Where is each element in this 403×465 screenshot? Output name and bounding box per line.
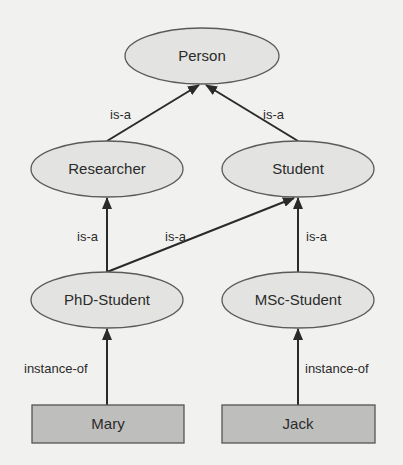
edge-jack-instance-of-msc-student: instance-of <box>298 329 369 405</box>
node-jack: Jack <box>222 405 375 443</box>
edge-msc-student-is-a-student: is-a <box>298 198 328 272</box>
node-mary: Mary <box>32 405 184 443</box>
arrow-line <box>107 198 294 272</box>
edge-label-instance-of: instance-of <box>24 361 88 376</box>
node-label-student: Student <box>272 160 325 177</box>
edge-phd-student-is-a-student: is-a <box>107 198 294 272</box>
edge-label-is-a: is-a <box>77 229 99 244</box>
node-label-person: Person <box>178 47 226 64</box>
edge-student-is-a-person: is-a <box>206 85 298 141</box>
edge-mary-instance-of-phd-student: instance-of <box>24 329 107 405</box>
edge-label-is-a: is-a <box>110 107 132 122</box>
node-msc-student: MSc-Student <box>222 272 374 328</box>
edge-phd-student-is-a-researcher: is-a <box>77 198 107 272</box>
node-phd-student: PhD-Student <box>31 272 183 328</box>
edge-label-instance-of: instance-of <box>305 361 369 376</box>
edge-label-is-a: is-a <box>263 107 285 122</box>
ontology-diagram: is-a is-a is-a is-a is-a instance-of ins… <box>0 0 403 465</box>
node-person: Person <box>125 28 279 84</box>
edge-researcher-is-a-person: is-a <box>107 85 199 141</box>
node-researcher: Researcher <box>31 141 183 197</box>
arrow-line <box>206 85 298 141</box>
node-student: Student <box>222 141 374 197</box>
edge-label-is-a: is-a <box>306 229 328 244</box>
edge-label-is-a: is-a <box>165 229 187 244</box>
node-label-researcher: Researcher <box>68 160 146 177</box>
node-label-mary: Mary <box>91 415 125 432</box>
node-label-jack: Jack <box>283 415 314 432</box>
node-label-phd-student: PhD-Student <box>64 291 151 308</box>
node-label-msc-student: MSc-Student <box>255 291 343 308</box>
